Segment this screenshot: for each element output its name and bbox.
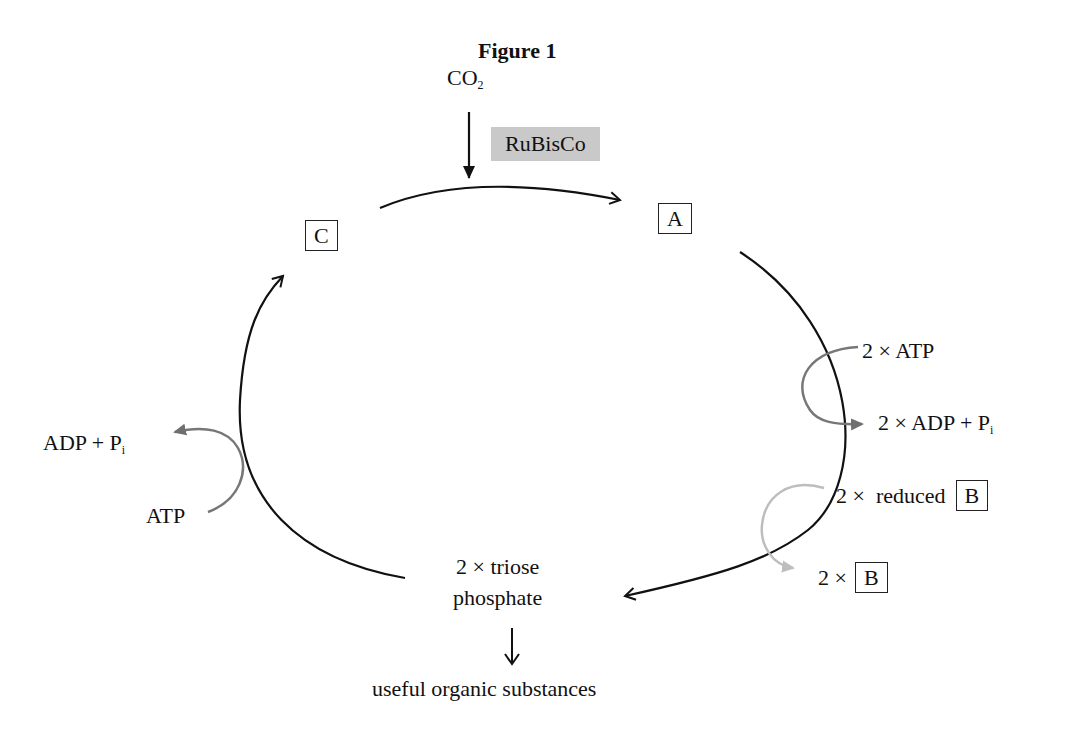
co2-label: CO2 [447, 67, 484, 91]
atp-to-adp-arrow-right [802, 347, 862, 424]
figure-title: Figure 1 [478, 38, 556, 64]
output-label: useful organic substances [372, 678, 596, 700]
arrow-c-to-a [380, 187, 620, 208]
right-atp-label: 2 × ATP [862, 340, 934, 362]
triose-line1: 2 × triose [456, 556, 539, 578]
right-adp-label: 2 × ADP + Pi [878, 412, 993, 436]
b-output-label: 2 × [818, 567, 847, 589]
arrow-triose-to-c [240, 276, 405, 578]
left-adp-label: ADP + Pi [43, 432, 125, 456]
compound-b-box: B [855, 562, 888, 593]
cycle-arrows [0, 0, 1091, 736]
compound-b-reduced-box: B [956, 480, 989, 511]
left-atp-label: ATP [146, 505, 185, 527]
triose-line2: phosphate [453, 587, 542, 609]
rubisco-enzyme-label: RuBisCo [491, 127, 600, 161]
b-output-row: 2 × B [818, 562, 888, 593]
compound-a-box: A [658, 203, 692, 234]
arrow-a-to-triose [625, 252, 845, 596]
compound-c-box: C [305, 220, 338, 251]
reduced-b-row: 2 × reduced B [836, 480, 988, 511]
atp-to-adp-arrow-left [175, 429, 243, 512]
reduced-b-to-b-arrow [762, 485, 824, 568]
reduced-b-label: 2 × reduced [836, 485, 946, 507]
